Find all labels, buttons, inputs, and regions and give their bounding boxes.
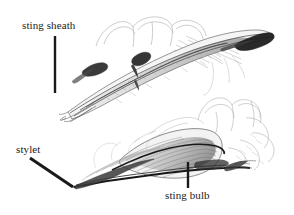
- lower-specimen: [73, 98, 274, 189]
- sting-apparatus-figure: sting sheath stylet sting bulb: [0, 0, 294, 215]
- label-sting-sheath: sting sheath: [22, 19, 75, 31]
- label-sting-bulb: sting bulb: [165, 189, 210, 201]
- upper-lower-lobes: [203, 56, 245, 95]
- upper-membrane-lobes: [96, 17, 206, 47]
- lower-sac-shading: [236, 134, 264, 164]
- leader-line-stylet: [30, 158, 73, 187]
- upper-specimen: [59, 17, 274, 122]
- label-stylet: stylet: [16, 143, 40, 155]
- illustration-artwork: [0, 0, 294, 215]
